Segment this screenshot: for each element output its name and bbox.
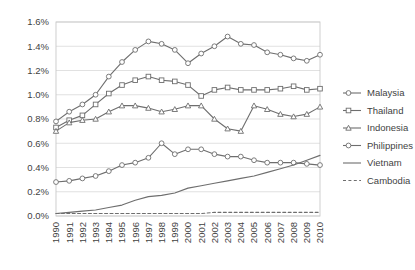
- data-point-marker: [212, 88, 217, 93]
- legend: MalaysiaThailandIndonesiaPhilippinesViet…: [343, 87, 413, 185]
- data-point-marker: [212, 44, 217, 49]
- x-tick-label: 2005: [248, 222, 259, 243]
- data-point-marker: [199, 147, 204, 152]
- data-point-marker: [54, 119, 59, 124]
- legend-item-philippines[interactable]: Philippines: [343, 140, 413, 151]
- line-chart: 0.0%0.2%0.4%0.6%0.8%1.0%1.2%1.4%1.6% 199…: [0, 0, 415, 270]
- data-point-marker: [225, 34, 230, 39]
- data-point-marker: [238, 41, 243, 46]
- data-point-marker: [159, 41, 164, 46]
- data-point-marker: [318, 52, 323, 57]
- legend-item-label: Thailand: [367, 105, 403, 116]
- data-point-marker: [67, 109, 72, 114]
- x-tick-label: 2008: [288, 222, 299, 243]
- data-point-marker: [238, 154, 243, 159]
- x-tick-label: 1995: [116, 222, 127, 243]
- data-point-marker: [146, 74, 151, 79]
- y-tick-label: 1.6%: [27, 16, 49, 27]
- data-point-marker: [278, 52, 283, 57]
- y-axis-tick-labels: 0.0%0.2%0.4%0.6%0.8%1.0%1.2%1.4%1.6%: [27, 16, 49, 221]
- x-tick-label: 1990: [50, 222, 61, 243]
- y-tick-label: 0.4%: [27, 162, 49, 173]
- data-point-marker: [159, 78, 164, 83]
- legend-marker-swatch: [346, 91, 351, 96]
- x-tick-label: 2002: [209, 222, 220, 243]
- x-tick-label: 2009: [301, 222, 312, 243]
- chart-canvas: 0.0%0.2%0.4%0.6%0.8%1.0%1.2%1.4%1.6% 199…: [0, 0, 415, 270]
- data-point-marker: [251, 103, 256, 108]
- data-point-marker: [106, 74, 111, 79]
- x-tick-label: 2000: [182, 222, 193, 243]
- legend-item-thailand[interactable]: Thailand: [343, 105, 403, 116]
- legend-item-label: Vietnam: [367, 157, 402, 168]
- series-lines: [53, 34, 322, 213]
- data-point-marker: [93, 102, 98, 107]
- data-point-marker: [278, 160, 283, 165]
- data-point-marker: [93, 174, 98, 179]
- data-point-marker: [304, 111, 309, 116]
- y-tick-label: 1.4%: [27, 41, 49, 52]
- data-point-marker: [252, 43, 257, 48]
- legend-item-malaysia[interactable]: Malaysia: [343, 87, 405, 98]
- data-point-marker: [107, 91, 112, 96]
- data-point-marker: [172, 152, 177, 157]
- legend-marker-swatch: [346, 143, 351, 148]
- data-point-marker: [120, 163, 125, 168]
- data-point-marker: [318, 163, 323, 168]
- legend-item-cambodia[interactable]: Cambodia: [343, 175, 411, 186]
- y-tick-label: 0.8%: [27, 113, 49, 124]
- legend-item-label: Indonesia: [367, 122, 409, 133]
- legend-item-label: Philippines: [367, 140, 413, 151]
- data-point-marker: [225, 85, 230, 90]
- series-philippines: [54, 141, 323, 185]
- data-point-marker: [159, 141, 164, 146]
- x-tick-label: 1999: [169, 222, 180, 243]
- data-point-marker: [252, 88, 257, 93]
- data-point-marker: [304, 161, 309, 166]
- data-point-marker: [186, 147, 191, 152]
- data-point-marker: [291, 84, 296, 89]
- x-tick-label: 1993: [90, 222, 101, 243]
- data-point-marker: [278, 86, 283, 91]
- x-axis-tick-labels: 1990199119921993199419951996199719981999…: [50, 222, 325, 243]
- data-point-marker: [265, 50, 270, 55]
- data-point-marker: [172, 47, 177, 52]
- data-point-marker: [133, 78, 138, 83]
- x-tick-label: 1994: [103, 222, 114, 243]
- series-malaysia: [54, 34, 323, 124]
- x-tick-label: 1996: [130, 222, 141, 243]
- data-point-marker: [120, 60, 125, 65]
- data-point-marker: [173, 79, 178, 84]
- data-point-marker: [146, 39, 151, 44]
- y-tick-label: 1.0%: [27, 89, 49, 100]
- data-point-marker: [106, 169, 111, 174]
- y-tick-label: 0.0%: [27, 210, 49, 221]
- legend-item-vietnam[interactable]: Vietnam: [343, 157, 402, 168]
- data-point-marker: [80, 176, 85, 181]
- data-point-marker: [199, 51, 204, 56]
- x-tick-label: 2010: [314, 222, 325, 243]
- series-indonesia: [53, 103, 322, 133]
- data-point-marker: [304, 58, 309, 63]
- data-point-marker: [133, 160, 138, 165]
- legend-item-indonesia[interactable]: Indonesia: [343, 122, 409, 133]
- series-cambodia: [56, 212, 320, 213]
- data-point-marker: [80, 102, 85, 107]
- legend-item-label: Cambodia: [367, 175, 411, 186]
- data-point-marker: [93, 92, 98, 97]
- data-point-marker: [265, 88, 270, 93]
- data-point-marker: [291, 56, 296, 61]
- data-point-marker: [252, 158, 257, 163]
- series-line: [56, 212, 320, 213]
- data-point-marker: [305, 88, 310, 93]
- data-point-marker: [318, 86, 323, 91]
- legend-marker-swatch: [346, 108, 351, 113]
- y-tick-label: 0.6%: [27, 138, 49, 149]
- data-point-marker: [186, 83, 191, 88]
- legend-item-label: Malaysia: [367, 87, 405, 98]
- x-tick-label: 1998: [156, 222, 167, 243]
- data-point-marker: [317, 104, 322, 109]
- data-point-marker: [199, 94, 204, 99]
- y-tick-label: 1.2%: [27, 65, 49, 76]
- x-tick-label: 2004: [235, 222, 246, 243]
